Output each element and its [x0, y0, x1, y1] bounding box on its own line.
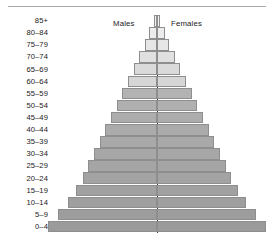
bar-males	[111, 112, 157, 124]
bar-males	[117, 100, 157, 112]
pyramid-bar-row	[0, 39, 274, 51]
bar-males	[58, 209, 157, 221]
bar-females	[157, 51, 175, 63]
bar-females	[157, 76, 186, 88]
bar-females	[157, 148, 220, 160]
bar-females	[157, 63, 180, 75]
pyramid-bar-row	[0, 209, 274, 221]
bar-females	[157, 124, 209, 136]
bar-males	[139, 51, 157, 63]
pyramid-bar-row	[0, 148, 274, 160]
pyramid-bar-row	[0, 221, 274, 233]
pyramid-bar-row	[0, 76, 274, 88]
pyramid-bar-row	[0, 160, 274, 172]
bar-females	[157, 136, 214, 148]
population-pyramid-figure: Males Females 85+80–8475–7970–7465–6960–…	[0, 0, 274, 233]
pyramid-bar-row	[0, 15, 274, 27]
bar-males	[76, 185, 157, 197]
top-divider-rule	[8, 6, 266, 7]
bar-females	[157, 39, 169, 51]
bar-males	[48, 221, 157, 233]
bar-females	[157, 15, 160, 27]
bar-females	[157, 112, 203, 124]
bar-males	[145, 39, 157, 51]
bar-males	[128, 76, 157, 88]
pyramid-bar-row	[0, 136, 274, 148]
pyramid-bar-row	[0, 51, 274, 63]
bar-males	[94, 148, 157, 160]
bar-males	[122, 88, 157, 100]
pyramid-bar-row	[0, 185, 274, 197]
bar-females	[157, 209, 256, 221]
bar-males	[100, 136, 157, 148]
pyramid-bar-row	[0, 27, 274, 39]
bar-females	[157, 160, 226, 172]
pyramid-bar-row	[0, 63, 274, 75]
pyramid-bar-row	[0, 124, 274, 136]
bar-males	[88, 160, 157, 172]
bar-females	[157, 221, 266, 233]
bar-males	[149, 27, 157, 39]
bar-males	[134, 63, 157, 75]
bar-females	[157, 185, 238, 197]
bar-males	[68, 197, 157, 209]
pyramid-bar-row	[0, 100, 274, 112]
pyramid-bar-row	[0, 197, 274, 209]
bar-females	[157, 172, 231, 184]
bar-males	[83, 172, 157, 184]
pyramid-bar-row	[0, 172, 274, 184]
bar-females	[157, 27, 165, 39]
bar-females	[157, 100, 197, 112]
pyramid-bar-row	[0, 112, 274, 124]
bar-females	[157, 197, 246, 209]
pyramid-bar-row	[0, 88, 274, 100]
bar-males	[105, 124, 157, 136]
pyramid-plot-area	[0, 15, 274, 233]
bar-females	[157, 88, 192, 100]
